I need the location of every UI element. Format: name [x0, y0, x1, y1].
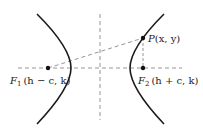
point-p-label: P(x, y) [147, 33, 180, 44]
focus-1-label: F1(h − c, k) [9, 75, 71, 88]
hyperbola-diagram: P(x, y) F1(h − c, k) F2(h + c, k) [0, 0, 203, 131]
hyperbola-right-branch [130, 14, 164, 124]
f1-to-p-dashed-line [48, 38, 143, 68]
point-p [141, 36, 145, 40]
focus-2-label: F2(h + c, k) [137, 75, 199, 88]
hyperbola-left-branch [37, 14, 71, 124]
focus-1-point [46, 66, 50, 70]
focus-2-point [141, 66, 145, 70]
